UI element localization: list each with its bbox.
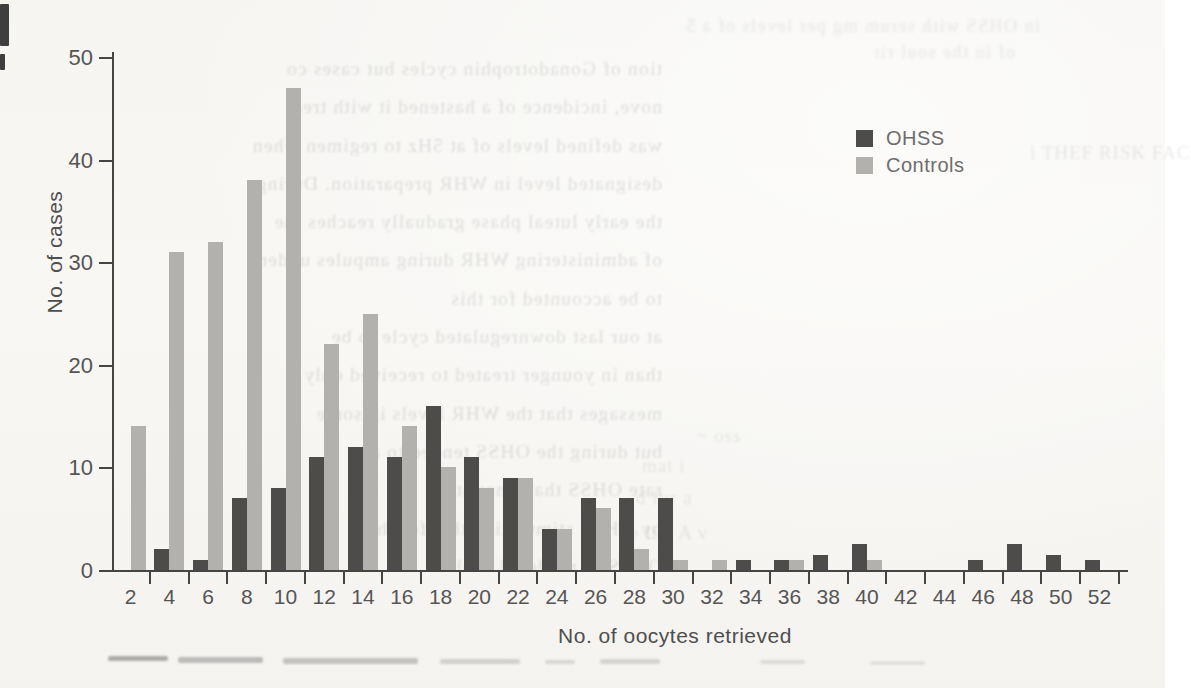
x-axis-label-36: 36 — [769, 586, 809, 608]
x-axis-tick — [226, 572, 228, 584]
y-axis-title: No. of cases — [43, 157, 69, 347]
bleedthrough-line: nove, incidence of a hastened it with tr… — [176, 88, 662, 126]
bar-ohss-38 — [813, 555, 828, 570]
x-axis-label-30: 30 — [653, 586, 693, 608]
x-axis-tick — [149, 572, 151, 584]
x-axis-tick — [614, 572, 616, 584]
bar-ohss-30 — [658, 498, 673, 570]
bar-ohss-4 — [154, 549, 169, 570]
bar-ohss-34 — [736, 560, 751, 570]
x-axis-tick — [1118, 572, 1120, 584]
scan-smudge — [600, 659, 660, 664]
bar-ohss-8 — [232, 498, 247, 570]
x-axis-tick — [536, 572, 538, 584]
legend-item-ohss: OHSS — [856, 127, 964, 149]
bar-controls-40 — [867, 560, 882, 570]
x-axis-label-4: 4 — [149, 586, 189, 608]
x-axis-label-10: 10 — [266, 586, 306, 608]
bar-controls-22 — [518, 478, 533, 570]
legend: OHSS Controls — [856, 127, 964, 181]
bar-controls-12 — [324, 344, 339, 570]
scan-smudge — [108, 656, 168, 661]
y-axis-tick-30 — [99, 262, 112, 264]
x-axis-label-18: 18 — [421, 586, 461, 608]
bar-ohss-24 — [542, 529, 557, 570]
bleedthrough-fragment: mat i — [642, 455, 686, 477]
x-axis-tick — [924, 572, 926, 584]
x-axis-label-22: 22 — [498, 586, 538, 608]
bar-ohss-46 — [968, 560, 983, 570]
bar-controls-8 — [247, 180, 262, 570]
y-axis-tick-50 — [99, 57, 112, 59]
bar-controls-18 — [441, 467, 456, 570]
y-axis-label-50: 50 — [37, 47, 93, 69]
y-axis-tick-10 — [99, 467, 112, 469]
bar-controls-2 — [131, 426, 146, 570]
bar-controls-30 — [673, 560, 688, 570]
x-axis-tick — [1002, 572, 1004, 584]
controls-swatch — [856, 157, 873, 174]
x-axis-tick — [420, 572, 422, 584]
bar-ohss-20 — [464, 457, 479, 570]
x-axis-label-16: 16 — [382, 586, 422, 608]
scan-edge-mark — [0, 54, 5, 70]
x-axis-tick — [575, 572, 577, 584]
x-axis-label-38: 38 — [808, 586, 848, 608]
legend-item-controls: Controls — [856, 154, 964, 176]
y-axis-spine — [112, 52, 114, 572]
bar-controls-20 — [479, 488, 494, 570]
bar-controls-24 — [557, 529, 572, 570]
y-axis-tick-0 — [99, 570, 112, 572]
x-axis-label-14: 14 — [343, 586, 383, 608]
bar-ohss-40 — [852, 544, 867, 570]
x-axis-tick — [692, 572, 694, 584]
scan-smudge — [178, 657, 263, 663]
bar-controls-16 — [402, 426, 417, 570]
x-axis-label-24: 24 — [537, 586, 577, 608]
x-axis-tick — [498, 572, 500, 584]
x-axis-tick — [1079, 572, 1081, 584]
bleedthrough-top-line: in OHSS with serum mg per levels of a 5 — [620, 16, 1040, 37]
bar-ohss-22 — [503, 478, 518, 570]
x-axis-tick — [188, 572, 190, 584]
bar-ohss-10 — [271, 488, 286, 570]
bar-ohss-14 — [348, 447, 363, 570]
y-axis-tick-40 — [99, 160, 112, 162]
x-axis-tick — [808, 572, 810, 584]
legend-label-controls: Controls — [886, 154, 964, 177]
legend-label-ohss: OHSS — [886, 127, 945, 150]
bar-controls-6 — [208, 242, 223, 570]
x-axis-label-6: 6 — [188, 586, 228, 608]
bar-controls-36 — [789, 560, 804, 570]
x-axis-tick — [885, 572, 887, 584]
scan-smudge — [440, 659, 520, 664]
x-axis-label-44: 44 — [924, 586, 964, 608]
x-axis-label-48: 48 — [1002, 586, 1042, 608]
x-axis-tick — [343, 572, 345, 584]
bar-controls-26 — [596, 508, 611, 570]
bar-ohss-18 — [426, 406, 441, 570]
scan-edge-mark — [0, 4, 9, 46]
bar-ohss-52 — [1085, 560, 1100, 570]
x-axis-tick — [769, 572, 771, 584]
x-axis-tick — [1040, 572, 1042, 584]
y-axis-label-20: 20 — [37, 355, 93, 377]
bleedthrough-line: tion of Gonadotrophin cycles but cases c… — [176, 50, 662, 88]
bleedthrough-fragment: ~ oss — [697, 425, 741, 447]
x-axis-tick — [459, 572, 461, 584]
x-axis-label-28: 28 — [614, 586, 654, 608]
x-axis-tick — [265, 572, 267, 584]
bar-controls-10 — [286, 88, 301, 570]
x-axis-tick — [653, 572, 655, 584]
bar-ohss-50 — [1046, 555, 1061, 570]
x-axis-label-34: 34 — [731, 586, 771, 608]
x-axis-label-26: 26 — [576, 586, 616, 608]
x-axis-label-42: 42 — [886, 586, 926, 608]
bleedthrough-top-line: of in the soul rim — [875, 42, 1015, 63]
bar-controls-28 — [634, 549, 649, 570]
bar-ohss-16 — [387, 457, 402, 570]
y-axis-label-10: 10 — [37, 457, 93, 479]
bar-ohss-36 — [774, 560, 789, 570]
scan-smudge — [760, 660, 805, 664]
